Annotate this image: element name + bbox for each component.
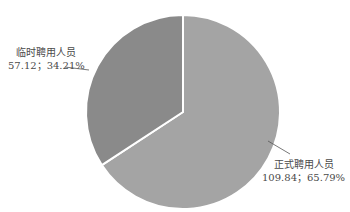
pie-slices xyxy=(86,15,280,209)
label-value: 109.84；65.79% xyxy=(262,171,345,184)
label-name: 正式聘用人员 xyxy=(262,158,345,171)
slice-label-formal-staff: 正式聘用人员 109.84；65.79% xyxy=(262,158,345,184)
slice-label-temporary-staff: 临时聘用人员 57.12；34.21% xyxy=(8,46,85,72)
label-name: 临时聘用人员 xyxy=(8,46,85,59)
label-value: 57.12；34.21% xyxy=(8,59,85,72)
